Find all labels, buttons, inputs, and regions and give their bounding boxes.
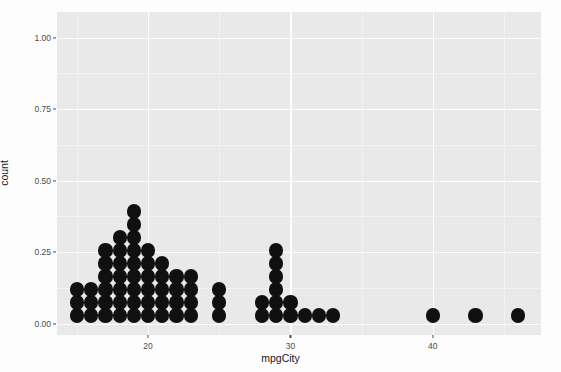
- x-tick-mark: [290, 335, 291, 338]
- data-dot: [269, 282, 283, 296]
- x-tick-mark: [432, 335, 433, 338]
- data-dot: [269, 243, 283, 257]
- y-tick-label: 0.25: [34, 247, 51, 257]
- data-dot: [113, 230, 127, 244]
- data-dot: [98, 269, 112, 283]
- data-dot: [141, 308, 155, 322]
- data-dot: [283, 295, 297, 309]
- data-dot: [269, 295, 283, 309]
- data-dot: [141, 256, 155, 270]
- data-dot: [70, 295, 84, 309]
- data-dot: [426, 308, 440, 322]
- data-dot: [212, 282, 226, 296]
- data-dot: [113, 243, 127, 257]
- gridline-minor-vertical: [362, 12, 363, 335]
- dotplot-chart: 0.000.250.500.751.00 203040 mpgCity coun…: [0, 0, 561, 372]
- data-dot: [155, 256, 169, 270]
- data-dot: [127, 256, 141, 270]
- data-dot: [169, 269, 183, 283]
- x-tick-label: 20: [143, 341, 152, 351]
- data-dot: [169, 282, 183, 296]
- data-dot: [184, 295, 198, 309]
- data-dot: [212, 308, 226, 322]
- data-dot: [155, 308, 169, 322]
- data-dot: [141, 295, 155, 309]
- plot-panel: [57, 12, 541, 335]
- x-tick-label: 40: [428, 341, 437, 351]
- data-dot: [269, 269, 283, 283]
- x-tick-label: 30: [286, 341, 295, 351]
- gridline-minor-horizontal: [57, 73, 541, 74]
- data-dot: [113, 269, 127, 283]
- data-dot: [269, 256, 283, 270]
- data-dot: [184, 308, 198, 322]
- data-dot: [113, 295, 127, 309]
- gridline-major-vertical: [290, 12, 291, 335]
- data-dot: [269, 308, 283, 322]
- y-tick-label: 1.00: [34, 33, 51, 43]
- x-axis-title: mpgCity: [0, 352, 561, 364]
- data-dot: [326, 308, 340, 322]
- data-dot: [468, 308, 482, 322]
- data-dot: [84, 295, 98, 309]
- gridline-minor-horizontal: [57, 145, 541, 146]
- data-dot: [113, 256, 127, 270]
- data-dot: [113, 282, 127, 296]
- gridline-major-horizontal: [57, 324, 541, 325]
- y-tick-mark: [53, 323, 56, 324]
- data-dot: [127, 204, 141, 218]
- gridline-major-vertical: [433, 12, 434, 335]
- data-dot: [70, 308, 84, 322]
- data-dot: [283, 308, 297, 322]
- y-axis-title: count: [0, 160, 10, 186]
- data-dot: [255, 308, 269, 322]
- data-dot: [98, 282, 112, 296]
- data-dot: [255, 295, 269, 309]
- data-dot: [127, 243, 141, 257]
- data-dot: [84, 308, 98, 322]
- data-dot: [155, 269, 169, 283]
- y-tick-label: 0.75: [34, 104, 51, 114]
- y-tick-label: 0.00: [34, 319, 51, 329]
- data-dot: [212, 295, 226, 309]
- gridline-minor-vertical: [504, 12, 505, 335]
- data-dot: [84, 282, 98, 296]
- data-dot: [98, 308, 112, 322]
- data-dot: [511, 308, 525, 322]
- data-dot: [98, 256, 112, 270]
- data-dot: [127, 295, 141, 309]
- y-tick-mark: [53, 252, 56, 253]
- data-dot: [127, 282, 141, 296]
- data-dot: [70, 282, 84, 296]
- gridline-major-horizontal: [57, 38, 541, 39]
- data-dot: [184, 269, 198, 283]
- data-dot: [127, 217, 141, 231]
- y-tick-mark: [53, 180, 56, 181]
- data-dot: [98, 243, 112, 257]
- data-dot: [113, 308, 127, 322]
- y-tick-mark: [53, 37, 56, 38]
- data-dot: [127, 230, 141, 244]
- data-dot: [169, 308, 183, 322]
- data-dot: [127, 269, 141, 283]
- gridline-major-horizontal: [57, 181, 541, 182]
- data-dot: [169, 295, 183, 309]
- y-tick-label: 0.50: [34, 176, 51, 186]
- data-dot: [155, 295, 169, 309]
- data-dot: [141, 282, 155, 296]
- data-dot: [98, 295, 112, 309]
- data-dot: [141, 243, 155, 257]
- data-dot: [298, 308, 312, 322]
- data-dot: [184, 282, 198, 296]
- data-dot: [155, 282, 169, 296]
- data-dot: [141, 269, 155, 283]
- data-dot: [127, 308, 141, 322]
- x-tick-mark: [148, 335, 149, 338]
- y-tick-mark: [53, 109, 56, 110]
- gridline-major-horizontal: [57, 109, 541, 110]
- data-dot: [312, 308, 326, 322]
